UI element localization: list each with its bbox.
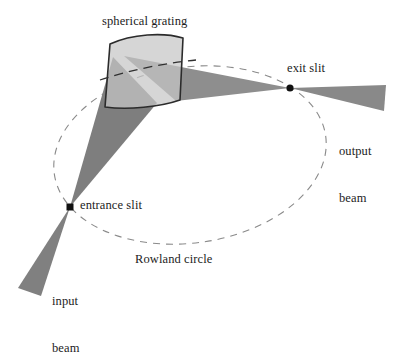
label-input-beam: input beam bbox=[52, 263, 79, 356]
output-beam-shape bbox=[290, 85, 386, 111]
label-input-beam-line1: input bbox=[52, 294, 79, 310]
label-entrance-slit: entrance slit bbox=[80, 198, 142, 213]
output-beam-cone bbox=[290, 85, 386, 111]
grating-surface bbox=[105, 35, 183, 109]
label-input-beam-line2: beam bbox=[52, 341, 79, 356]
exit-slit-point bbox=[286, 84, 293, 91]
label-rowland-circle: Rowland circle bbox=[135, 252, 212, 267]
label-output-beam-line1: output bbox=[339, 144, 372, 160]
label-exit-slit: exit slit bbox=[287, 61, 325, 76]
label-spherical-grating: spherical grating bbox=[102, 14, 187, 29]
label-output-beam-line2: beam bbox=[339, 191, 372, 207]
exit-slit-dot bbox=[286, 84, 293, 91]
entrance-slit-dot bbox=[67, 204, 74, 211]
entrance-slit-point bbox=[67, 204, 74, 211]
label-output-beam: output beam bbox=[339, 113, 372, 237]
